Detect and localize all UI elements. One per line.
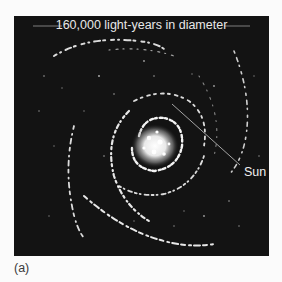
diameter-label: 160,000 light-years in diameter bbox=[14, 17, 269, 33]
galaxy-image-panel: 160,000 light-years in diameter Sun bbox=[14, 16, 269, 256]
galactic-core bbox=[131, 124, 179, 168]
sun-label: Sun bbox=[244, 164, 266, 180]
spiral-galaxy-illustration bbox=[14, 16, 269, 256]
figure-caption: (a) bbox=[14, 260, 29, 276]
